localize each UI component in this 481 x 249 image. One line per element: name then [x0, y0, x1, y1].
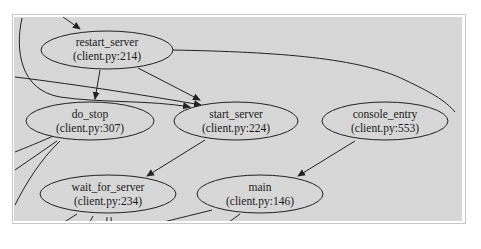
node-start_server[interactable]: start_server (client.py:224): [174, 102, 298, 140]
node-location: (client.py:307): [56, 122, 124, 135]
edge-restart_server-do_stop: [95, 70, 100, 99]
edge-restart_server-start_server: [138, 68, 200, 100]
node-name: console_entry: [353, 108, 418, 121]
node-name: restart_server: [76, 36, 139, 48]
node-location: (client.py:214): [73, 50, 141, 63]
node-location: (client.py:234): [74, 195, 142, 208]
node-location: (client.py:224): [202, 122, 270, 135]
node-console_entry[interactable]: console_entry (client.py:553): [322, 102, 448, 140]
node-name: start_server: [209, 108, 263, 120]
node-name: wait_for_server: [72, 181, 145, 193]
edge-start_server-wait_for_server: [147, 140, 205, 176]
call-graph-canvas: restart_server (client.py:214) do_stop (…: [14, 17, 462, 221]
edge-wait_for_server-out-1: [47, 214, 77, 221]
edge-wait_for_server-out-3: [106, 217, 107, 221]
edge-main-out-2: [214, 214, 240, 221]
node-name: do_stop: [72, 108, 109, 121]
edge-offscreen-restart_server: [63, 17, 80, 29]
edge-do_stop-out-2: [15, 141, 57, 170]
node-wait_for_server[interactable]: wait_for_server (client.py:234): [40, 175, 176, 213]
node-main[interactable]: main (client.py:146): [197, 175, 323, 213]
edge-wait_for_server-out-4: [111, 217, 112, 221]
edge-console_entry-main: [298, 141, 355, 176]
node-location: (client.py:146): [226, 195, 294, 208]
node-name: main: [249, 181, 272, 193]
node-do_stop[interactable]: do_stop (client.py:307): [26, 102, 154, 140]
node-location: (client.py:553): [351, 122, 419, 135]
edge-wait_for_server-out-2: [84, 216, 93, 221]
node-restart_server[interactable]: restart_server (client.py:214): [41, 31, 173, 69]
